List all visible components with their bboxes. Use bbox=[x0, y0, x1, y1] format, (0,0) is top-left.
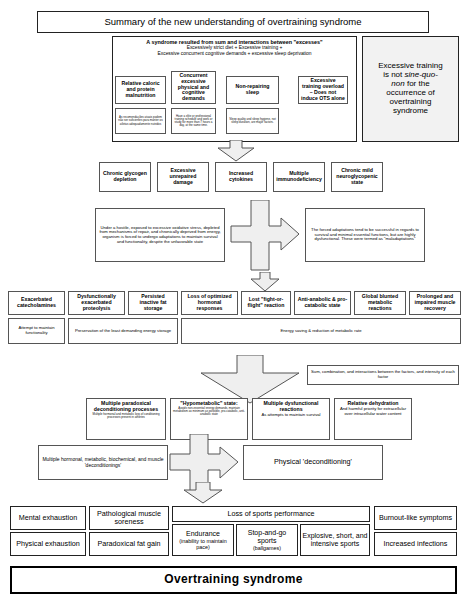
maladaptation-muscle-recovery: Prolonged and impaired muscle recovery bbox=[409, 291, 461, 315]
outcome-sport-explosive: Explosive, short, and intensive sports bbox=[300, 524, 370, 556]
outcome-infections: Increased infections bbox=[374, 532, 457, 556]
excess-note-sleep-text: Sleep quality and sleep hygiene, not sle… bbox=[228, 118, 277, 124]
decond-paradoxical-note: Multiple hormonal and metabolic loss of … bbox=[89, 413, 163, 419]
maladaptation-note-right: Energy saving & reduction of metabolic r… bbox=[181, 318, 461, 344]
maladaptation-blunted-metabolic: Global blunted metabolic reactions bbox=[354, 291, 406, 315]
outcome-sport-stop-and-go-l1: Stop-and-go sports bbox=[238, 529, 296, 545]
cross-arrow-1 bbox=[229, 200, 301, 276]
maladaptation-catecholamines: Exacerbated catecholamines bbox=[8, 291, 65, 315]
consequence-damage: Excessive unrepaired damage bbox=[157, 162, 209, 192]
consequence-cytokines: Increased cytokines bbox=[215, 162, 267, 192]
maladaptation-fight-or-flight-label: Lost "fight-or-flight" reaction bbox=[244, 297, 288, 309]
down-arrow-4 bbox=[180, 482, 226, 504]
outcome-sports-header: Loss of sports performance bbox=[172, 506, 370, 522]
maladaptation-fat-storage: Persisted inactive fat storage bbox=[128, 291, 178, 315]
decond-dysfunctional: Multiple dysfunctional reactions As atte… bbox=[252, 398, 330, 440]
outcome-physical-exhaustion: Physical exhaustion bbox=[10, 532, 86, 556]
consequence-damage-label: Excessive unrepaired damage bbox=[160, 168, 206, 185]
diagram-title-box: Summary of the new understanding of over… bbox=[37, 11, 429, 33]
maladaptation-note-mid-text: Preservation of the least demanding ener… bbox=[75, 329, 171, 334]
maladaptation-hormonal-label: Loss of optimized hormonal responses bbox=[184, 294, 235, 311]
consequence-glycogen: Chronic glycogen depletion bbox=[99, 162, 151, 192]
maladaptation-proteolysis-label: Dysfunctionally exacerbated proteolysis bbox=[71, 294, 122, 311]
maladaptation-hormonal: Loss of optimized hormonal responses bbox=[181, 291, 238, 315]
decond-dehydration-note: And harmful priority for extracellular o… bbox=[337, 407, 409, 416]
sine-quo-non-l6: syndrome bbox=[393, 107, 428, 116]
outcome-fat-gain: Paradoxical fat gain bbox=[89, 532, 169, 556]
final-label: Overtraining syndrome bbox=[164, 573, 302, 586]
maladaptation-catecholamines-label: Exacerbated catecholamines bbox=[11, 297, 62, 309]
maladaptation-muscle-recovery-label: Prolonged and impaired muscle recovery bbox=[412, 294, 458, 311]
outcome-sport-stop-and-go-l2: (ballgames) bbox=[253, 545, 281, 551]
maladaptation-note-right-text: Energy saving & reduction of metabolic r… bbox=[280, 329, 361, 334]
maladaptation-note-mid: Preservation of the least demanding ener… bbox=[68, 318, 178, 344]
maladaptation-anti-anabolic: Anti-anabolic & pro-catabolic state bbox=[294, 291, 351, 315]
excess-note-caloric-text: As recomendações atuais podem não ser su… bbox=[117, 116, 164, 126]
maladaptation-blunted-metabolic-label: Global blunted metabolic reactions bbox=[357, 294, 403, 311]
physical-deconditioning-text: Physical 'deconditioning' bbox=[274, 458, 352, 466]
decond-paradoxical: Multiple paradoxical deconditioning proc… bbox=[86, 398, 166, 440]
outcome-fat-gain-label: Paradoxical fat gain bbox=[97, 540, 160, 548]
final-overtraining-syndrome-box: Overtraining syndrome bbox=[10, 566, 457, 594]
outcome-muscle-soreness: Pathological muscle soreness bbox=[89, 506, 169, 530]
consequence-neuroglycopenic: Chronic mild neuroglycopenic state bbox=[331, 162, 383, 192]
maladaptation-anti-anabolic-label: Anti-anabolic & pro-catabolic state bbox=[297, 297, 348, 309]
excess-item-overload-title: Excessive training overload – Does not i… bbox=[301, 78, 345, 101]
outcome-sport-stop-and-go: Stop-and-go sports (ballgames) bbox=[236, 524, 298, 556]
down-arrow-1 bbox=[214, 140, 258, 162]
decond-hypometabolic-note: Avoids non-essential energy demands, mai… bbox=[173, 407, 245, 417]
decond-paradoxical-title: Multiple paradoxical deconditioning proc… bbox=[89, 401, 163, 413]
sum-note-box: Sum, combination, and interactions betwe… bbox=[307, 365, 459, 385]
outcome-sport-explosive-l1: Explosive, short, and intensive sports bbox=[302, 532, 368, 548]
maladaptation-note-left: Attempt to maintain functionality bbox=[8, 318, 65, 344]
decond-dysfunctional-title: Multiple dysfunctional reactions bbox=[255, 401, 327, 413]
excess-item-sleep-title: Non-repairing sleep bbox=[229, 84, 276, 96]
maladaptation-fat-storage-label: Persisted inactive fat storage bbox=[131, 294, 175, 311]
adaptation-right-box: The forced adaptations tend to be succes… bbox=[305, 208, 425, 262]
outcome-burnout: Burnout-like symptoms bbox=[374, 506, 457, 530]
maladaptation-fight-or-flight: Lost "fight-or-flight" reaction bbox=[241, 291, 291, 315]
consequence-glycogen-label: Chronic glycogen depletion bbox=[102, 171, 148, 183]
outcome-sport-endurance-l2: (inability to maintain pace) bbox=[174, 538, 232, 550]
outcome-physical-exhaustion-label: Physical exhaustion bbox=[16, 540, 80, 548]
excess-item-cognitive-title: Concurrent excessive physical and cognit… bbox=[174, 73, 213, 102]
consequence-immunodeficiency-label: Multiple immunodeficiency bbox=[276, 171, 322, 183]
outcome-sports-header-label: Loss of sports performance bbox=[227, 510, 314, 518]
diagram-canvas: Summary of the new understanding of over… bbox=[0, 0, 467, 605]
outcome-sport-endurance: Endurance (inability to maintain pace) bbox=[172, 524, 234, 556]
outcome-burnout-label: Burnout-like symptoms bbox=[379, 514, 452, 522]
decond-dehydration: Relative dehydration And harmful priorit… bbox=[334, 398, 412, 440]
maladaptation-note-left-text: Attempt to maintain functionality bbox=[11, 326, 62, 335]
outcome-infections-label: Increased infections bbox=[384, 540, 448, 548]
down-arrow-2 bbox=[248, 272, 282, 292]
excess-note-cognitive-text: Have a elite or professional training sc… bbox=[173, 115, 214, 128]
consequence-neuroglycopenic-label: Chronic mild neuroglycopenic state bbox=[334, 168, 380, 185]
adaptation-left-text: Under a hostile, exposed to excessive ox… bbox=[99, 226, 221, 245]
outcome-sport-endurance-l1: Endurance bbox=[186, 530, 220, 538]
excess-line3: Excessive concurrent cognitive demands +… bbox=[157, 51, 311, 56]
outcome-muscle-soreness-label: Pathological muscle soreness bbox=[92, 510, 166, 526]
sum-note-text: Sum, combination, and interactions betwe… bbox=[311, 370, 455, 379]
outcome-mental-exhaustion: Mental exhaustion bbox=[10, 506, 86, 530]
excess-note-caloric: As recomendações atuais podem não ser su… bbox=[115, 108, 166, 134]
decond-dysfunctional-note: As attempts to maintain survival bbox=[261, 413, 320, 418]
excess-item-caloric: Relative caloric and protein malnutritio… bbox=[115, 76, 166, 104]
consequence-cytokines-label: Increased cytokines bbox=[218, 171, 264, 183]
outcome-mental-exhaustion-label: Mental exhaustion bbox=[19, 514, 77, 522]
consequence-immunodeficiency: Multiple immunodeficiency bbox=[273, 162, 325, 192]
maladaptation-proteolysis: Dysfunctionally exacerbated proteolysis bbox=[68, 291, 125, 315]
excess-item-caloric-title: Relative caloric and protein malnutritio… bbox=[118, 81, 163, 98]
sine-quo-non-box: Excessive training is not sine-quo- non … bbox=[362, 36, 459, 142]
excess-item-cognitive: Concurrent excessive physical and cognit… bbox=[171, 71, 216, 104]
adaptation-left-box: Under a hostile, exposed to excessive ox… bbox=[95, 208, 225, 262]
excess-note-cognitive: Have a elite or professional training sc… bbox=[171, 108, 216, 134]
decond-summary-box: Multiple hormonal, metabolic, biochemica… bbox=[38, 445, 168, 480]
excess-note-sleep: Sleep quality and sleep hygiene, not sle… bbox=[226, 108, 279, 134]
decond-summary-text: Multiple hormonal, metabolic, biochemica… bbox=[42, 457, 164, 468]
excess-item-sleep: Non-repairing sleep bbox=[226, 76, 279, 104]
physical-deconditioning-box: Physical 'deconditioning' bbox=[243, 445, 383, 480]
excess-item-overload: Excessive training overload – Does not i… bbox=[298, 76, 348, 104]
adaptation-right-text: The forced adaptations tend to be succes… bbox=[309, 228, 421, 242]
page-title: Summary of the new understanding of over… bbox=[104, 17, 361, 28]
